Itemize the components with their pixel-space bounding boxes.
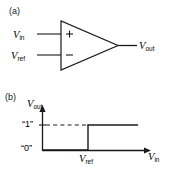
y-axis-label-logic-high: “1” (22, 120, 33, 129)
figure-container: (a) Vin Vref Vout (0, 0, 173, 177)
x-axis-label-vin: Vin (148, 152, 159, 163)
plus-sign-icon (66, 31, 73, 38)
y-axis-vout-subscript: out (33, 103, 42, 110)
threshold-vref-subscript: ref (85, 158, 93, 165)
y-axis-label-logic-low: “0” (21, 144, 32, 153)
panel-label-b: (b) (5, 93, 16, 102)
y-axis-label-vout: Vout (27, 99, 42, 110)
x-axis-vin-subscript: in (154, 156, 159, 163)
opamp-triangle-icon (61, 21, 118, 70)
transfer-characteristic-plot (39, 105, 151, 154)
comparator-schematic (37, 21, 137, 70)
x-axis-tick-label-vref: Vref (79, 154, 93, 165)
